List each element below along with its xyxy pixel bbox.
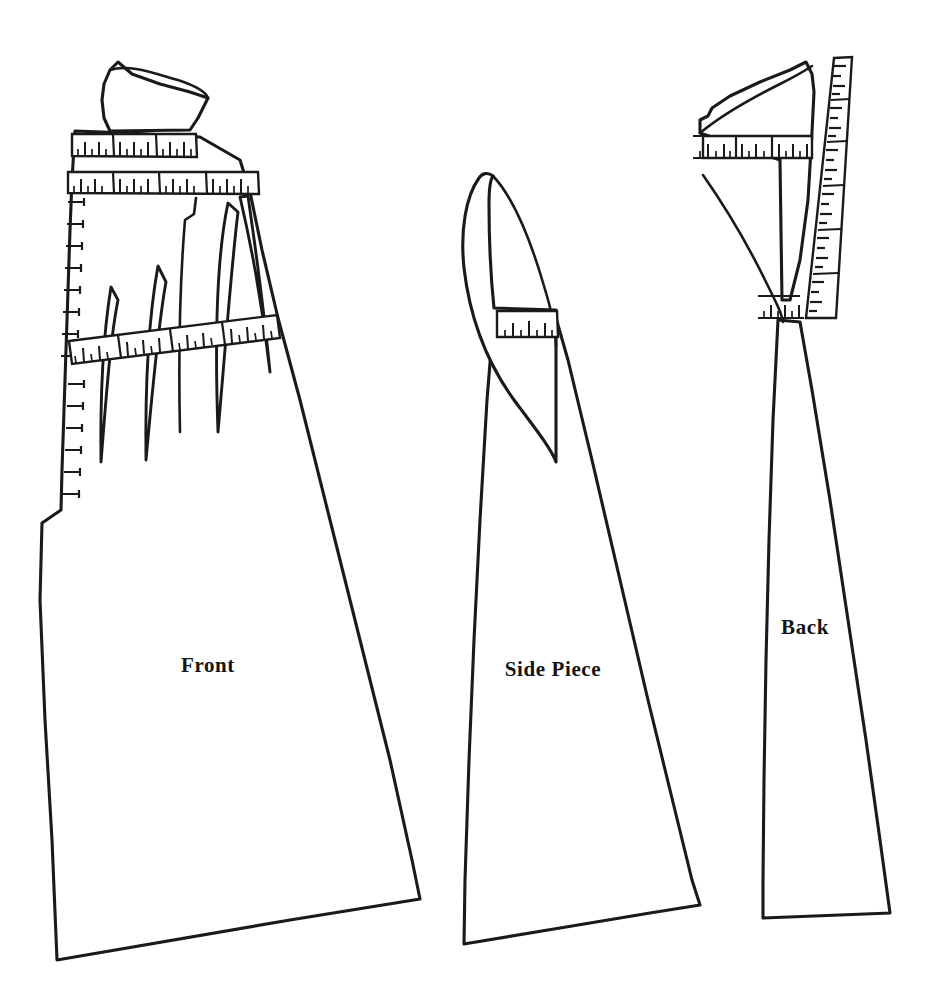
pattern-sheet: Front Side Piece bbox=[0, 0, 941, 1004]
side-waist-band-box bbox=[497, 311, 558, 337]
front-upper-band-divider bbox=[113, 134, 114, 156]
front-lower-band-divider bbox=[113, 172, 114, 193]
side-waist-band-ticks bbox=[505, 321, 552, 337]
front-piece-label: Front bbox=[181, 653, 235, 677]
pattern-drawing: Front Side Piece bbox=[0, 0, 941, 1004]
back-upper-measurement-band[interactable] bbox=[693, 136, 812, 158]
back-scale-strip-divider bbox=[827, 141, 847, 142]
side-piece-label: Side Piece bbox=[505, 657, 601, 681]
front-upper-measurement-band[interactable] bbox=[72, 134, 197, 157]
front-upper-band-divider bbox=[156, 134, 157, 156]
front-lower-band-box bbox=[68, 172, 259, 194]
back-scale-strip-divider bbox=[823, 185, 844, 186]
front-lower-band-divider bbox=[159, 172, 160, 193]
front-lower-measurement-band[interactable] bbox=[68, 172, 259, 194]
front-lower-band-divider bbox=[206, 172, 207, 193]
back-upper-band-box bbox=[703, 136, 812, 158]
side-waist-measurement-band[interactable] bbox=[497, 311, 558, 337]
back-scale-strip-divider bbox=[818, 229, 841, 230]
back-scale-strip-divider bbox=[831, 99, 850, 100]
back-scale-strip-divider bbox=[813, 273, 838, 274]
back-piece-label: Back bbox=[781, 615, 829, 639]
